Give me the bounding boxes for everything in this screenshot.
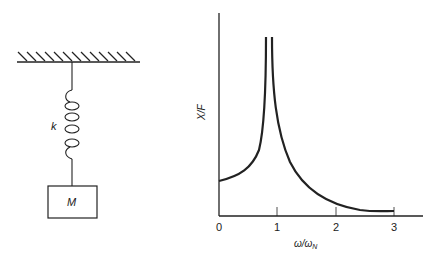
x-axis-label: ω/ωN [294,238,318,250]
x-tick-labels: 0 1 2 3 [216,221,397,233]
svg-text:2: 2 [333,221,339,233]
svg-text:3: 3 [391,221,397,233]
chart-axes [219,13,423,216]
diagram-canvas: k M 0 1 2 3 ω/ωN X/F [0,0,439,254]
y-axis-label: X/F [196,104,207,121]
mass-label: M [67,196,77,208]
spring [65,62,79,186]
svg-text:0: 0 [216,221,222,233]
ceiling-support [17,52,140,62]
response-curve [219,37,394,211]
spring-constant-label: k [51,120,57,132]
svg-text:1: 1 [274,221,280,233]
